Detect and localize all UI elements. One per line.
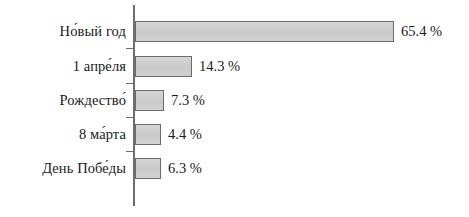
bar-group: 14.3 % [135, 56, 240, 77]
bar-row: День Побе́ды 6.3 % [0, 158, 469, 179]
bar-group: 6.3 % [135, 158, 202, 179]
bar-row: 8 ма́рта 4.4 % [0, 124, 469, 145]
bar-value-label: 14.3 % [199, 59, 240, 74]
category-label: 8 ма́рта [0, 127, 126, 142]
category-label: Рождество́ [0, 93, 126, 108]
category-label: День Побе́ды [0, 161, 126, 176]
bar [135, 90, 164, 111]
category-label: Но́вый год [0, 24, 126, 39]
bar-row: 1 апре́ля 14.3 % [0, 56, 469, 77]
bar-group: 4.4 % [135, 124, 202, 145]
bar-value-label: 4.4 % [168, 127, 202, 142]
bar [135, 158, 161, 179]
bar-value-label: 6.3 % [168, 161, 202, 176]
bar-row: Рождество́ 7.3 % [0, 90, 469, 111]
bar-group: 7.3 % [135, 90, 205, 111]
bar-group: 65.4 % [135, 21, 442, 42]
bar-value-label: 7.3 % [171, 93, 205, 108]
category-label: 1 апре́ля [0, 59, 126, 74]
bar-row: Но́вый год 65.4 % [0, 21, 469, 42]
bar-value-label: 65.4 % [401, 24, 442, 39]
bar [135, 56, 192, 77]
horizontal-bar-chart: Но́вый год 65.4 % 1 апре́ля 14.3 % Рожде… [0, 0, 469, 217]
bar [135, 21, 394, 42]
bar [135, 124, 161, 145]
bar-rows: Но́вый год 65.4 % 1 апре́ля 14.3 % Рожде… [0, 0, 469, 217]
